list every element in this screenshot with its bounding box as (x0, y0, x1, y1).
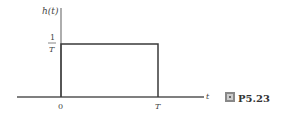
level-numerator: 1 (50, 33, 55, 42)
level-denominator: T (49, 45, 55, 54)
tick-label-zero: 0 (58, 102, 63, 111)
figure-icon (225, 92, 235, 102)
y-axis-label: h(t) (42, 6, 59, 16)
x-axis-label: t (206, 92, 210, 101)
figure-label: P5.23 (238, 93, 270, 104)
tick-label-T: T (155, 102, 161, 111)
rect-pulse-diagram: h(t) 1 T 0 T t P5.23 (0, 0, 281, 118)
pulse-waveform (61, 44, 158, 97)
